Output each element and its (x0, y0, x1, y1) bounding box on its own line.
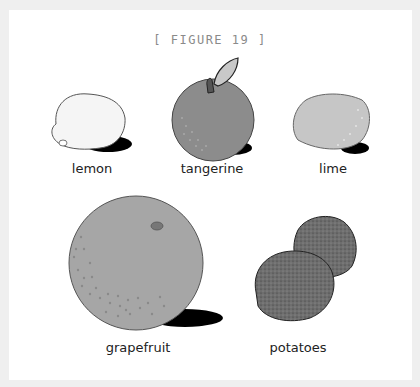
tangerine-illustration (172, 58, 254, 161)
figure-illustration (0, 0, 420, 387)
lime-illustration (293, 94, 369, 154)
potatoes-illustration (255, 216, 356, 320)
label-lime: lime (283, 161, 383, 176)
label-potatoes: potatoes (248, 340, 348, 355)
label-grapefruit: grapefruit (88, 340, 188, 355)
label-lemon: lemon (42, 161, 142, 176)
label-tangerine: tangerine (162, 161, 262, 176)
grapefruit-illustration (69, 196, 223, 330)
lemon-illustration (52, 94, 132, 152)
